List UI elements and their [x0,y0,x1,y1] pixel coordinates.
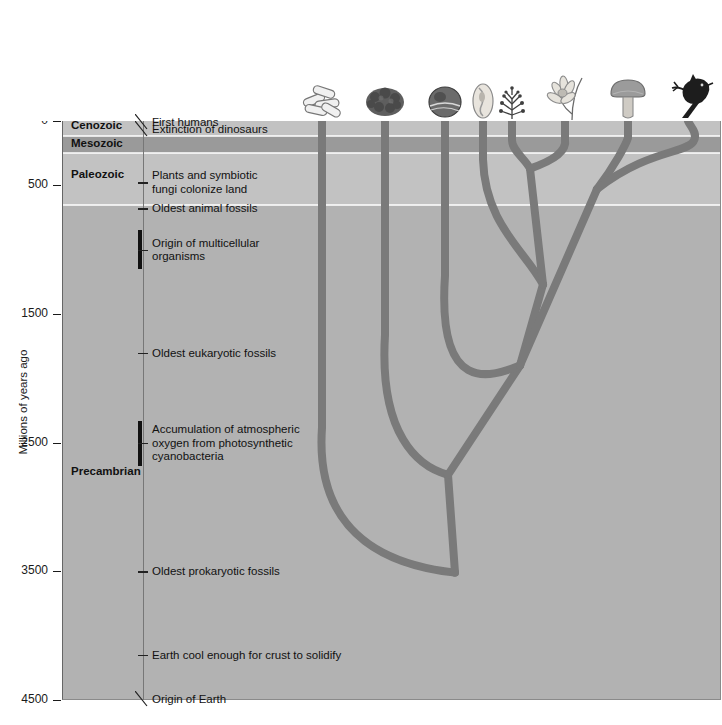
event-tick-mark [138,571,148,573]
event-label: Extinction of dinosaurs [152,123,268,137]
event-tick-mark [138,443,148,445]
event-label: Earth cool enough for crust to solidify [152,649,341,663]
bacteria-icon [298,72,346,120]
y-tick-mark-0 [53,121,61,122]
fungi-icon [604,72,652,120]
protist-icon-3 [488,72,536,120]
figure-root: ProkaryotesEukaryotesBacteriaArchaeaProt… [0,0,722,725]
event-tick-mark [138,182,148,184]
era-name-mesozoic: Mesozoic [71,137,123,149]
archaea-icon [361,72,409,120]
y-tick-mark-1500 [53,314,61,315]
era-band-mesozoic [63,136,720,152]
animal-icon [666,72,714,120]
event-label: Oldest prokaryotic fossils [152,565,280,579]
event-label: Origin of multicellular organisms [152,237,259,264]
event-label: Origin of Earth [152,693,226,707]
y-tick-mark-4500 [53,700,61,701]
y-tick-mark-500 [53,185,61,186]
era-name-precambrian: Precambrian [71,465,141,477]
era-name-paleozoic: Paleozoic [71,168,124,180]
event-tick-mark [138,250,148,252]
y-tick-label-1500: 1500 [2,306,48,320]
event-label: Oldest animal fossils [152,202,257,216]
event-tick-mark [138,353,148,355]
event-tick-mark [138,208,148,210]
y-tick-label-3500: 3500 [2,563,48,577]
event-tick-mark [138,655,148,657]
y-tick-mark-2500 [53,443,61,444]
event-leader-line [135,121,149,143]
event-leader-line [135,691,149,713]
plant-icon [541,72,589,120]
y-axis-title: Millions of years ago [17,327,29,477]
era-separator [63,152,720,154]
era-name-cenozoic: Cenozoic [71,121,122,131]
event-label: Oldest eukaryotic fossils [152,347,276,361]
y-tick-mark-3500 [53,571,61,572]
y-tick-label-500: 500 [2,177,48,191]
event-label: Plants and symbiotic fungi colonize land [152,169,257,196]
event-label: Accumulation of atmospheric oxygen from … [152,423,300,464]
y-tick-label-4500: 4500 [2,692,48,706]
